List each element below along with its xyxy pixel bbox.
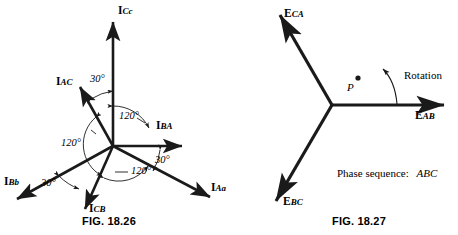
- vector-label-e-bc: EBC: [283, 196, 303, 208]
- angle-label-120-cb-aa: 120°: [131, 166, 151, 177]
- angle-label-30-ba-aa: 30°: [155, 155, 170, 166]
- vector-label-i-ba: IBA: [156, 120, 173, 132]
- angle-label-120-ac-cb: 120°: [61, 138, 81, 149]
- angle-label-30-ac-cc: 30°: [90, 74, 105, 85]
- vector-label-i-cc: ICc: [118, 5, 132, 17]
- point-p-label: P: [347, 82, 354, 93]
- arc-30-ac-cc: [91, 91, 113, 99]
- phase-sequence-value: ABC: [417, 167, 438, 179]
- point-p-dot: [355, 75, 360, 80]
- vector-label-i-aa: IAa: [211, 182, 226, 194]
- arc-30-bb-cb: [59, 176, 79, 189]
- vector-line-e-ca: [280, 15, 332, 105]
- phase-sequence-note: Phase sequence: ABC: [337, 168, 437, 179]
- phase-sequence-prefix: Phase sequence:: [337, 167, 409, 179]
- vector-label-i-cb: ICB: [89, 203, 106, 215]
- vector-line-e-bc: [276, 105, 332, 201]
- angle-label-30-bb-cb: 30°: [41, 178, 56, 189]
- figure-caption-18-27: FIG. 18.27: [332, 216, 386, 227]
- vector-label-i-bb: IBb: [4, 176, 19, 188]
- figure-pair-root: ICc IBA IAa IBb IAC ICB 30° 120° 120° 12…: [0, 0, 458, 235]
- vector-label-i-ac: IAC: [56, 76, 73, 88]
- rotation-arc: [383, 69, 397, 104]
- rotation-label: Rotation: [404, 70, 442, 81]
- phasor-diagram-svg: [0, 0, 458, 235]
- angle-label-120-cc-ba: 120°: [119, 111, 139, 122]
- figure-caption-18-26: FIG. 18.26: [82, 216, 136, 227]
- arc-120-ac-cb: [83, 117, 102, 176]
- vector-line-i-bb: [17, 146, 113, 199]
- leader-120-left: [91, 130, 96, 134]
- vector-line-i-cb: [85, 146, 113, 209]
- vector-label-e-ca: ECA: [284, 8, 304, 20]
- vector-label-e-ab: EAB: [415, 110, 435, 122]
